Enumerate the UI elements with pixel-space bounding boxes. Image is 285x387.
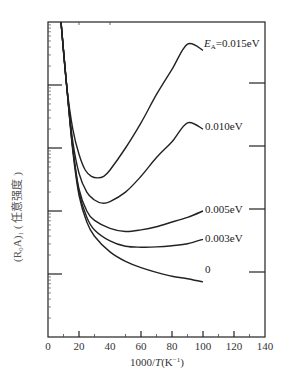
x-tick-label: 0 [45, 340, 51, 352]
label-ea-0005: 0.005eV [205, 203, 243, 215]
y-axis-title: (R₀A)₁ ( 任意强度 ) [8, 172, 24, 262]
x-tick-label: 100 [195, 340, 212, 352]
label-ea-0003: 0.003eV [205, 232, 243, 244]
label-ea-0010: 0.010eV [205, 120, 243, 132]
curve-ea-0 [61, 22, 203, 282]
curve-ea-0-003ev [61, 22, 203, 247]
x-tick-label: 60 [136, 340, 148, 352]
label-ea-0015: EA=0.015eV [203, 37, 260, 51]
curve-ea-0-010ev [61, 22, 203, 203]
x-tick-label: 140 [257, 340, 274, 352]
curves [61, 22, 203, 282]
x-tick-label: 80 [167, 340, 179, 352]
x-tick-label: 40 [105, 340, 117, 352]
chart: 020406080100120140 EA=0.015eV 0.010eV 0.… [0, 0, 285, 387]
label-ea-0: 0 [205, 263, 211, 275]
y-axis-ticks [48, 25, 265, 318]
x-axis-ticks: 020406080100120140 [45, 22, 274, 352]
x-tick-label: 120 [226, 340, 243, 352]
x-tick-label: 20 [74, 340, 86, 352]
x-axis-title: 1000/T(K−1) [130, 356, 184, 369]
curve-ea-0-005ev [61, 22, 203, 232]
curve-ea-0-015ev [61, 22, 203, 178]
